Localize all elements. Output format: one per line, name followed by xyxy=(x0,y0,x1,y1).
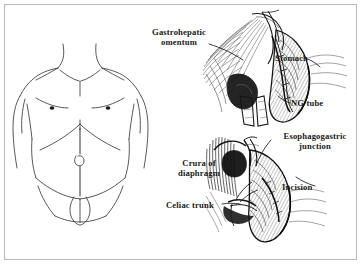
label-crura-of-diaphragm: Crura of diaphragm xyxy=(166,158,232,179)
label-esophagogastric-junction: Esophagogastric junction xyxy=(268,131,362,152)
label-gastrohepatic-omentum: Gastrohepatic omentum xyxy=(133,27,225,48)
label-ng-tube: NG tube xyxy=(291,98,323,108)
label-incision: Incision xyxy=(282,182,312,192)
label-stomach: Stomach xyxy=(275,53,308,63)
figure-page: Gastrohepatic omentum Stomach NG tube Es… xyxy=(0,0,362,265)
label-celiac-trunk: Celiac trunk xyxy=(166,200,214,210)
